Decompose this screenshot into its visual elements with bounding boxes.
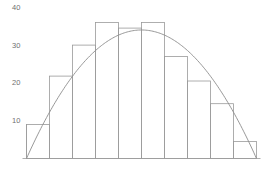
- bar: [188, 81, 211, 158]
- y-tick-label-40: 40: [12, 3, 21, 12]
- histogram-curve-chart: 40 30 20 10: [0, 0, 266, 170]
- bar: [165, 56, 188, 158]
- y-tick-label-30: 30: [12, 41, 21, 50]
- bar: [142, 22, 165, 158]
- bar: [211, 104, 234, 159]
- y-tick-label-20: 20: [12, 78, 21, 87]
- plot-area: [23, 22, 261, 158]
- bar: [50, 76, 73, 158]
- y-axis-tick-labels: 40 30 20 10: [12, 3, 21, 125]
- chart-container: 40 30 20 10: [0, 0, 266, 170]
- bar: [119, 28, 142, 158]
- bar: [27, 124, 50, 158]
- y-tick-label-10: 10: [12, 116, 21, 125]
- bar: [96, 22, 119, 158]
- bars-group: [27, 22, 257, 158]
